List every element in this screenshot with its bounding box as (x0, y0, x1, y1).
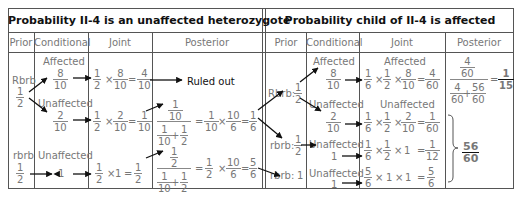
curly-brace (448, 115, 458, 182)
arrows-overlay (0, 0, 522, 199)
